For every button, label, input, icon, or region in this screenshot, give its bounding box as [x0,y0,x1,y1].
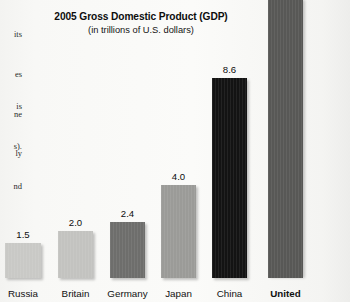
bar-chart-plot-area: 1.5Russia2.0Britain2.4Germany4.0Japan8.6… [0,0,350,302]
bar-value-label: 8.6 [202,64,257,75]
bar-group: 1.5Russia [5,0,41,302]
bar-category-label-united-states: United [252,288,319,299]
bar-united-states[interactable] [268,0,303,278]
bar-germany[interactable] [110,222,145,278]
bar-group: 4.0Japan [161,0,196,302]
bar-value-label: 2.0 [48,217,103,228]
bar-value-label: 1.5 [0,229,51,240]
bar-group: 2.4Germany [110,0,145,302]
bar-japan[interactable] [161,185,196,278]
bar-value-label: 2.4 [100,208,155,219]
bar-value-label: 4.0 [151,171,206,182]
bar-russia[interactable] [5,243,41,278]
bar-china[interactable] [212,78,247,278]
bar-group: 2.0Britain [58,0,93,302]
bar-britain[interactable] [58,231,93,278]
bar-group: United [268,0,303,302]
bar-group: 8.6China [212,0,247,302]
